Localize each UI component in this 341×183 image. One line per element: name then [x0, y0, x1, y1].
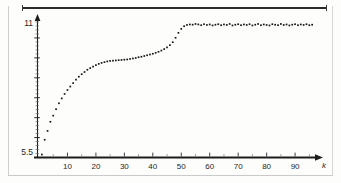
data-point [192, 24, 194, 26]
data-point [98, 63, 100, 65]
data-point [161, 50, 163, 52]
x-axis-tick-labels: 102030405060708090 [63, 162, 300, 171]
data-point [234, 24, 236, 26]
plot-area: 11 5.5 102030405060708090 k [0, 0, 341, 183]
data-point [189, 24, 191, 26]
data-point [106, 61, 108, 63]
data-point [87, 69, 89, 71]
data-point [254, 24, 256, 26]
data-point [52, 115, 54, 117]
data-point [178, 32, 180, 34]
data-point [124, 59, 126, 61]
data-point [172, 41, 174, 43]
data-point [308, 24, 310, 26]
data-point [155, 52, 157, 54]
data-point [118, 59, 120, 61]
data-point [237, 23, 239, 25]
data-point [266, 24, 268, 26]
data-point [143, 55, 145, 57]
x-tick-label: 60 [205, 162, 214, 171]
data-point [44, 139, 46, 141]
data-point [61, 98, 63, 100]
data-point [263, 24, 265, 26]
data-point [55, 108, 57, 110]
data-point [92, 66, 94, 68]
data-point [149, 54, 151, 56]
data-point [223, 24, 225, 26]
data-point [169, 44, 171, 46]
figure-page: 11 5.5 102030405060708090 k [0, 0, 341, 183]
data-point [180, 28, 182, 30]
x-axis-ticks [53, 153, 309, 157]
x-axis [34, 154, 323, 160]
x-axis-label: k [322, 161, 327, 170]
data-point [286, 24, 288, 26]
data-point [95, 64, 97, 66]
data-point [271, 23, 273, 25]
data-point [291, 24, 293, 26]
data-point [195, 23, 197, 25]
data-point [101, 62, 103, 64]
data-point [260, 24, 262, 26]
data-point [126, 59, 128, 61]
data-point [289, 25, 291, 27]
data-point [257, 23, 259, 25]
data-point [311, 24, 313, 26]
data-point [215, 24, 217, 26]
data-point [104, 61, 106, 63]
data-point [158, 51, 160, 53]
data-point [109, 60, 111, 62]
data-point [58, 102, 60, 104]
data-point [303, 24, 305, 26]
data-point [129, 58, 131, 60]
data-point [240, 24, 242, 26]
data-point [50, 121, 52, 123]
data-point [132, 58, 134, 60]
data-point [209, 24, 211, 26]
data-point [64, 93, 66, 95]
data-point [243, 24, 245, 26]
data-point-group [41, 23, 313, 155]
data-point [47, 130, 49, 132]
x-tick-label: 20 [91, 162, 100, 171]
data-point [78, 76, 80, 78]
data-point [300, 24, 302, 26]
data-point [217, 23, 219, 25]
x-tick-label: 90 [291, 162, 300, 171]
y-axis-bottom-label: 5.5 [21, 147, 33, 157]
data-point [166, 47, 168, 49]
data-point [183, 25, 185, 27]
x-tick-label: 50 [177, 162, 186, 171]
data-point [81, 73, 83, 75]
data-point [72, 82, 74, 84]
data-point [175, 37, 177, 39]
data-point [152, 53, 154, 55]
data-point [206, 24, 208, 26]
data-point [75, 79, 77, 81]
scatter-chart: 11 5.5 102030405060708090 k [0, 0, 341, 183]
data-point [246, 24, 248, 26]
data-point [67, 89, 69, 91]
data-point [89, 67, 91, 69]
data-point [280, 23, 282, 25]
data-point [249, 23, 251, 25]
data-point [226, 24, 228, 26]
x-tick-label: 80 [262, 162, 271, 171]
x-tick-label: 10 [63, 162, 72, 171]
data-point [121, 59, 123, 61]
data-point [306, 23, 308, 25]
data-point [277, 24, 279, 26]
x-tick-label: 30 [120, 162, 129, 171]
data-point [186, 24, 188, 26]
data-point [112, 60, 114, 62]
data-point [197, 24, 199, 26]
data-point [203, 23, 205, 25]
y-axis-top-label: 11 [24, 18, 33, 28]
y-axis-arrow-icon [35, 14, 41, 21]
data-point [297, 24, 299, 26]
data-point [294, 23, 296, 25]
data-point [138, 56, 140, 58]
data-point [252, 25, 254, 27]
x-tick-label: 70 [234, 162, 243, 171]
data-point [69, 86, 71, 88]
